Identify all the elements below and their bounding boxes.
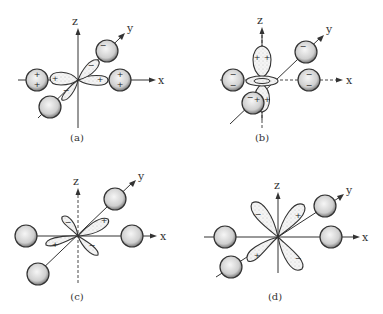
- orbital-diagram-c: z x y − − + +: [0, 157, 190, 314]
- y-axis-label: y: [325, 23, 333, 36]
- z-axis-label: z: [73, 175, 79, 188]
- svg-text:−: −: [300, 42, 307, 51]
- svg-text:+: +: [34, 80, 41, 89]
- svg-text:−: −: [88, 61, 95, 70]
- torus: [246, 76, 278, 86]
- svg-text:+: +: [254, 53, 261, 62]
- z-axis-label: z: [274, 179, 280, 192]
- caption-b: (b): [247, 132, 277, 143]
- svg-text:+: +: [101, 216, 108, 225]
- svg-text:−: −: [255, 210, 262, 219]
- ligand-front: [39, 96, 61, 118]
- svg-text:+: +: [97, 75, 104, 84]
- svg-text:+: +: [52, 240, 59, 249]
- caption-d: (d): [260, 291, 290, 302]
- caption-a: (a): [62, 132, 92, 143]
- svg-text:−: −: [89, 241, 96, 250]
- svg-text:+: +: [117, 80, 124, 89]
- x-axis-label: x: [158, 74, 165, 87]
- panel-a: z x y ++ + ++ + − − − (a): [0, 0, 190, 157]
- orbital-diagram-b: z x y ++ ++ −− −− − −: [190, 0, 380, 157]
- svg-text:+: +: [117, 70, 124, 79]
- y-axis-label: y: [126, 22, 134, 35]
- svg-text:−: −: [230, 70, 237, 79]
- panel-d: z x y − − + + (d): [190, 157, 380, 314]
- svg-text:−: −: [65, 218, 72, 227]
- caption-c: (c): [62, 291, 92, 302]
- svg-text:−: −: [295, 254, 302, 263]
- svg-text:−: −: [247, 93, 254, 102]
- y-axis-label: y: [137, 170, 145, 183]
- x-axis-label: x: [346, 74, 353, 87]
- y-axis-label: y: [345, 184, 353, 197]
- z-axis-label: z: [257, 14, 263, 27]
- svg-text:+: +: [264, 53, 271, 62]
- panel-c: z x y − − + + (c): [0, 157, 190, 314]
- svg-text:+: +: [295, 211, 302, 220]
- panel-b: z x y ++ ++ −− −− − − (b): [190, 0, 380, 157]
- svg-text:−: −: [306, 70, 313, 79]
- z-axis-label: z: [72, 15, 78, 28]
- x-axis-label: x: [160, 230, 167, 243]
- svg-text:−: −: [306, 81, 313, 90]
- svg-text:−: −: [230, 81, 237, 90]
- svg-text:+: +: [34, 70, 41, 79]
- svg-text:−: −: [63, 86, 70, 95]
- svg-text:+: +: [52, 74, 59, 83]
- svg-text:+: +: [264, 95, 271, 104]
- svg-text:+: +: [254, 251, 261, 260]
- svg-text:−: −: [100, 41, 107, 50]
- orbital-diagram-a: z x y ++ + ++ + − − −: [0, 0, 190, 157]
- svg-text:+: +: [254, 95, 261, 104]
- x-axis-label: x: [362, 231, 369, 244]
